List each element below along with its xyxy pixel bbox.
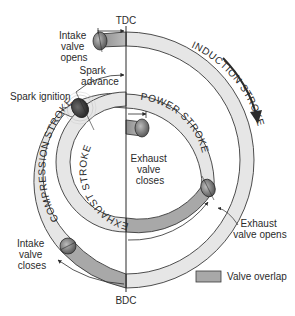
exhaust-closes-label: Exhaust valve closes bbox=[131, 153, 170, 186]
legend-label: Valve overlap bbox=[227, 271, 287, 282]
intake-closes-label: Intake valve closes bbox=[17, 238, 47, 271]
legend: Valve overlap bbox=[196, 271, 287, 282]
exhaust-lag-arrow bbox=[128, 111, 146, 118]
exhaust-closes-marker bbox=[135, 119, 149, 137]
intake-closes-marker bbox=[60, 238, 76, 254]
valve-timing-diagram: TDC BDC INDUCTION STROKE COMPRESSION STR… bbox=[0, 0, 295, 316]
tdc-label: TDC bbox=[116, 15, 137, 26]
spark-ignition-label: Spark ignition bbox=[10, 91, 71, 102]
spark-advance-label: Spark advance bbox=[80, 65, 120, 87]
exhaust-opens-label: Exhaust valve opens bbox=[233, 218, 286, 240]
legend-swatch bbox=[196, 271, 221, 282]
intake-opens-label: Intake valve opens bbox=[59, 30, 89, 63]
bdc-label: BDC bbox=[115, 295, 136, 306]
